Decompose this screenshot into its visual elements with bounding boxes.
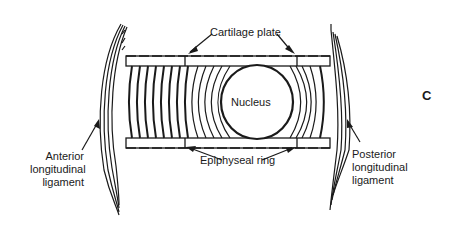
label-nucleus: Nucleus (231, 96, 271, 109)
label-epiphyseal-ring: Epiphyseal ring (200, 154, 275, 167)
annulus-lamellae (129, 66, 188, 138)
panel-letter: C (422, 88, 431, 103)
label-cartilage-plate: Cartilage plate (210, 26, 281, 39)
posterior-ligament-shape (330, 24, 350, 210)
top-cartilage-plate (126, 56, 330, 66)
label-anterior-ligament: Anterior longitudinal ligament (30, 150, 84, 189)
anterior-ligament-shape (100, 24, 127, 215)
label-posterior-ligament: Posterior longitudinal ligament (352, 148, 408, 187)
bottom-cartilage-plate (126, 138, 330, 148)
